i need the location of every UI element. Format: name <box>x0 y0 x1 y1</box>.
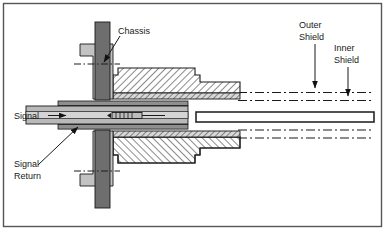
label-signal-return-line2: Return <box>14 171 41 181</box>
label-outer-shield-line2: Shield <box>299 32 324 42</box>
label-signal: Signal <box>14 111 39 121</box>
label-outer-shield-line1: Outer <box>299 20 322 30</box>
diagram-canvas: Chassis Outer Shield Inner Shield Signal… <box>0 0 385 230</box>
label-signal-return-line1: Signal <box>14 159 39 169</box>
label-chassis: Chassis <box>118 26 151 36</box>
center-conductor <box>196 112 374 122</box>
label-inner-shield-line2: Shield <box>334 55 359 65</box>
label-inner-shield-line1: Inner <box>334 43 355 53</box>
cross-section-svg: Chassis Outer Shield Inner Shield Signal… <box>0 0 385 230</box>
